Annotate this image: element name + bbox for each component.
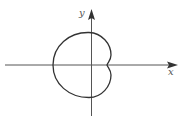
y-axis: [88, 9, 95, 116]
y-axis-label: y: [79, 8, 85, 18]
polar-plot: [0, 0, 191, 125]
x-axis-label: x: [168, 67, 174, 77]
